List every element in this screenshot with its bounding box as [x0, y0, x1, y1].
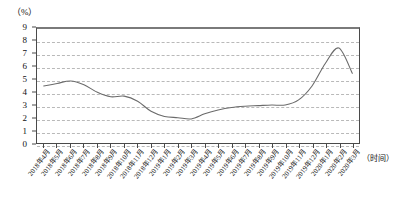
plot-area	[36, 27, 360, 144]
y-tick-label-8: 8	[23, 36, 28, 45]
y-tick-label-2: 2	[23, 114, 28, 123]
y-tick-label-4: 4	[23, 88, 28, 97]
y-tick-label-6: 6	[23, 62, 28, 71]
y-tick-label-0: 0	[23, 140, 28, 149]
x-axis-title: （时间）	[362, 152, 394, 163]
y-axis-unit-label: （%）	[12, 5, 38, 18]
y-tick-label-7: 7	[23, 49, 28, 58]
series-path	[44, 48, 353, 119]
series-line	[37, 29, 359, 143]
y-tick-label-3: 3	[23, 101, 28, 110]
y-axis: 0123456789	[0, 27, 32, 144]
y-tick-label-1: 1	[23, 127, 28, 136]
cpi-line-chart: （%） 0123456789 2018年4月2018年5月2018年6月2018…	[0, 0, 404, 206]
x-axis-labels: 2018年4月2018年5月2018年6月2018年7月2018年8月2018年…	[36, 148, 360, 204]
y-tick-label-5: 5	[23, 75, 28, 84]
y-tick-label-9: 9	[23, 23, 28, 32]
